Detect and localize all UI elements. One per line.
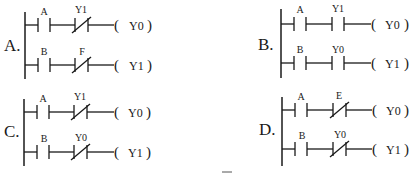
svg-text:(: ( — [114, 104, 119, 121]
option-c: C. A Y1 ( Y0 ) — [4, 91, 151, 166]
no-contact-icon — [37, 105, 49, 119]
rung-1: A Y1 ( Y0 ) — [24, 91, 151, 121]
option-a: A. A Y1 ( Y0 ) — [4, 4, 152, 79]
contact-label: B — [41, 133, 48, 144]
coil-label: Y0 — [129, 19, 144, 33]
rung-2: B Y0 ( Y1 ) — [24, 132, 151, 161]
svg-text:(: ( — [372, 102, 377, 119]
output-coil: ( Y0 ) — [114, 17, 152, 34]
svg-text:(: ( — [371, 16, 376, 33]
no-contact-icon — [37, 145, 49, 159]
contact-label: Y0 — [75, 132, 87, 143]
rung-2: B Y0 ( Y1 ) — [282, 129, 409, 158]
coil-label: Y0 — [386, 104, 401, 118]
option-a-label: A. — [4, 36, 21, 55]
coil-label: Y1 — [129, 59, 144, 73]
output-coil: ( Y1 ) — [114, 144, 151, 161]
no-contact-icon — [294, 56, 306, 70]
rung-2: B F ( Y1 ) — [25, 46, 152, 74]
no-contact-icon — [332, 17, 344, 31]
svg-text:(: ( — [114, 17, 119, 34]
svg-text:): ) — [147, 57, 152, 74]
rung-2: B Y0 ( Y1 ) — [281, 44, 409, 72]
option-b-label: B. — [258, 35, 274, 54]
coil-label: Y0 — [385, 18, 400, 32]
output-coil: ( Y0 ) — [372, 102, 409, 119]
rung-1: A E ( Y0 ) — [282, 90, 409, 119]
option-c-label: C. — [4, 122, 20, 141]
svg-text:(: ( — [372, 141, 377, 158]
rung-1: A Y1 ( Y0 ) — [281, 3, 409, 33]
no-contact-icon — [38, 18, 50, 32]
no-contact-icon — [38, 58, 50, 72]
coil-label: Y1 — [385, 57, 400, 71]
svg-text:(: ( — [371, 55, 376, 72]
svg-text:): ) — [146, 104, 151, 121]
svg-text:): ) — [146, 144, 151, 161]
contact-label: A — [39, 93, 47, 104]
contact-label: Y0 — [332, 44, 344, 55]
contact-label: Y1 — [332, 3, 344, 14]
no-contact-icon — [295, 142, 307, 156]
contact-label: A — [297, 91, 305, 102]
contact-label: F — [79, 46, 85, 57]
svg-text:): ) — [147, 17, 152, 34]
no-contact-icon — [332, 56, 344, 70]
contact-label: Y1 — [75, 4, 87, 15]
contact-label: B — [299, 130, 306, 141]
contact-label: A — [40, 6, 48, 17]
option-b: B. A Y1 ( Y0 ) — [258, 3, 409, 78]
svg-text:): ) — [404, 16, 409, 33]
contact-label: B — [297, 44, 304, 55]
coil-label: Y1 — [386, 143, 401, 157]
svg-text:(: ( — [114, 57, 119, 74]
contact-label: Y0 — [334, 129, 346, 140]
contact-label: A — [296, 4, 304, 15]
svg-text:): ) — [404, 141, 409, 158]
no-contact-icon — [294, 17, 306, 31]
output-coil: ( Y0 ) — [371, 16, 409, 33]
output-coil: ( Y0 ) — [114, 104, 151, 121]
svg-text:): ) — [404, 55, 409, 72]
rung-1: A Y1 ( Y0 ) — [25, 4, 152, 34]
option-d-label: D. — [259, 120, 276, 139]
contact-label: B — [41, 46, 48, 57]
output-coil: ( Y1 ) — [114, 57, 152, 74]
svg-text:(: ( — [114, 144, 119, 161]
contact-label: E — [336, 90, 342, 101]
contact-label: Y1 — [74, 91, 86, 102]
coil-label: Y1 — [128, 146, 143, 160]
output-coil: ( Y1 ) — [371, 55, 409, 72]
svg-text:): ) — [404, 102, 409, 119]
coil-label: Y0 — [128, 106, 143, 120]
no-contact-icon — [295, 103, 307, 117]
option-d: D. A E ( Y0 ) — [259, 90, 409, 166]
output-coil: ( Y1 ) — [372, 141, 409, 158]
ladder-diagram-options: A. A Y1 ( Y0 ) — [0, 0, 411, 173]
